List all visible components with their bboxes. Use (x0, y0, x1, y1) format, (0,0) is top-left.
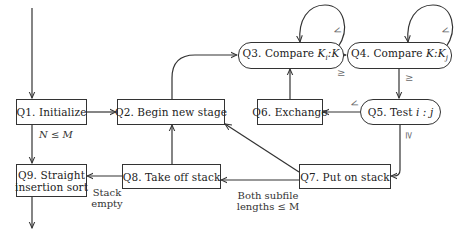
node-q9-label-line2: insertion sort (15, 181, 88, 193)
label-n-le-m: N ≤ M (39, 129, 73, 140)
node-q6-exchange: Q6. Exchange (257, 99, 323, 125)
node-q7-put-on-stack: Q7. Put on stack (299, 164, 391, 189)
node-q5-test-i-j: Q5. Test i : j (360, 99, 441, 125)
node-q7-label: Q7. Put on stack (300, 171, 389, 183)
node-q9-straight-insertion-sort: Q9. Straight insertion sort (16, 164, 87, 197)
edge-q7-q2 (225, 124, 299, 172)
label-both-subfile-lengths: Both subfile lengths ≤ M (232, 190, 304, 212)
node-q9-label-line1: Q9. Straight (18, 169, 85, 181)
node-q4-compare-k-kj: Q4. Compare K:Kj (347, 42, 452, 69)
node-q2-label: Q2. Begin new stage (115, 106, 227, 118)
node-q6-label: Q6. Exchange (252, 106, 327, 118)
label-q5-q7-geq: ≥ (404, 131, 415, 139)
node-q2-begin-new-stage: Q2. Begin new stage (117, 99, 225, 125)
node-q1-label: Q1. Initialize (17, 106, 87, 118)
node-q8-label: Q8. Take off stack (123, 171, 221, 183)
label-q4-q5-geq: ≥ (405, 72, 413, 83)
edge-q2-q3 (172, 55, 237, 99)
node-q1-initialize: Q1. Initialize (16, 99, 87, 125)
node-q5-label: Q5. Test i : j (368, 106, 434, 118)
edge-q5-q7 (391, 124, 400, 176)
label-stack-empty: Stack empty (90, 187, 124, 209)
label-q3-q4-geq: ≥ (337, 67, 345, 78)
node-q8-take-off-stack: Q8. Take off stack (122, 164, 221, 189)
node-q4-label: Q4. Compare K:Kj (351, 47, 448, 64)
node-q3-compare-ki-k: Q3. Compare Ki:K (238, 42, 344, 69)
flowchart: Q1. Initialize Q2. Begin new stage Q3. C… (0, 0, 463, 233)
node-q3-label: Q3. Compare Ki:K (243, 47, 340, 64)
